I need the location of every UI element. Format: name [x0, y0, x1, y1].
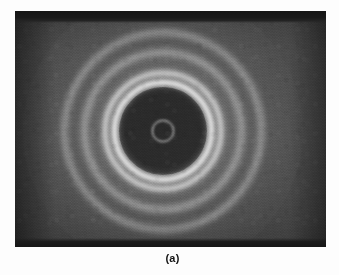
edge-vignette: [15, 11, 326, 247]
figure-caption-label: (a): [165, 252, 179, 264]
diffraction-photograph: [15, 11, 326, 247]
figure-caption: (a): [0, 252, 339, 264]
plate-top-edge-strip: [15, 11, 326, 23]
plate-bottom-edge-strip: [15, 238, 326, 247]
figure-container: (a): [0, 0, 339, 275]
